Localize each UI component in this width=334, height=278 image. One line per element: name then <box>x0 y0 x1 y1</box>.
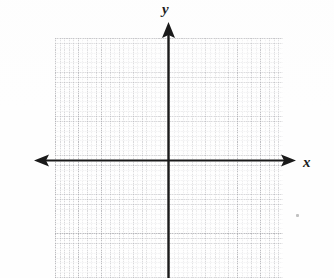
x-axis-label: x <box>303 155 311 170</box>
scan-artifact-speck <box>296 214 299 217</box>
axes-layer <box>0 0 334 278</box>
y-axis-label: y <box>162 2 169 17</box>
coordinate-plane-figure: y x <box>0 0 334 278</box>
